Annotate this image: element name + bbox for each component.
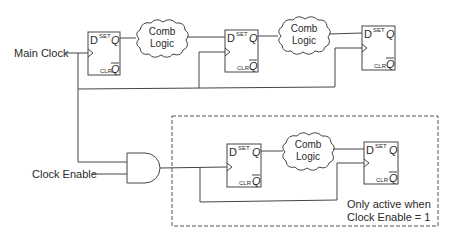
svg-text:Comb: Comb [149,26,176,37]
svg-text:D: D [90,34,98,46]
svg-text:Q: Q [252,146,261,158]
gated-region-note-line2: Clock Enable = 1 [347,211,430,223]
svg-text:D: D [364,28,372,40]
comb-logic-2: Comb Logic [279,17,331,55]
svg-text:D: D [229,146,237,158]
svg-text:SET: SET [238,145,250,151]
flip-flop-2: D SET Q CLR Q [225,30,258,72]
comb-logic-3: Comb Logic [283,133,335,171]
svg-text:Q: Q [252,175,261,187]
svg-text:Logic: Logic [296,151,320,162]
svg-text:Q: Q [111,63,120,75]
svg-text:SET: SET [375,143,387,149]
svg-text:SET: SET [236,31,248,37]
svg-text:Q: Q [111,34,120,46]
gated-region-note-line1: Only active when [347,198,431,210]
svg-text:D: D [227,32,235,44]
svg-text:D: D [366,144,374,156]
comb-logic-1: Comb Logic [137,20,189,58]
svg-text:Q: Q [386,28,395,40]
svg-text:Q: Q [249,60,258,72]
gated-clock-wires [160,163,364,202]
flip-flop-4: D SET Q CLR Q [227,144,261,187]
svg-text:Comb: Comb [291,23,318,34]
svg-text:Logic: Logic [292,35,316,46]
svg-text:CLR: CLR [376,177,389,183]
svg-text:Comb: Comb [295,139,322,150]
clock-gating-diagram: Main Clock D SET Q CLR Q Comb Logic D [0,0,454,242]
svg-text:Q: Q [389,172,398,184]
flip-flop-1: D SET Q CLR Q [88,32,120,75]
svg-text:Q: Q [249,32,258,44]
flip-flop-3: D SET Q CLR Q [362,26,395,70]
flip-flop-5: D SET Q CLR Q [364,142,398,184]
svg-text:Q: Q [389,144,398,156]
svg-text:CLR: CLR [239,180,252,186]
svg-text:SET: SET [373,27,385,33]
main-clock-label: Main Clock [14,47,69,59]
svg-text:Logic: Logic [150,38,174,49]
svg-text:CLR: CLR [237,65,250,71]
svg-text:CLR: CLR [374,63,387,69]
svg-text:SET: SET [99,33,111,39]
svg-text:Q: Q [386,58,395,70]
and-gate [127,153,160,183]
clock-enable-label: Clock Enable [32,168,97,180]
